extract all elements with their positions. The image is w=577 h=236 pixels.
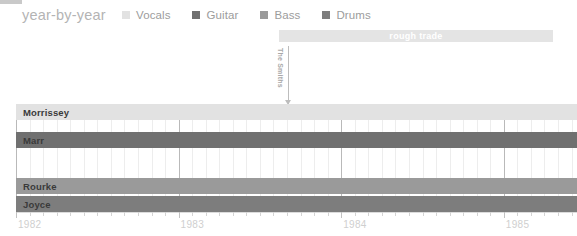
bar-series: MorrisseyMarrRourkeJoyce	[16, 104, 577, 212]
axis-tick-major	[179, 212, 180, 218]
axis-tick-minor	[355, 212, 356, 216]
axis-tick-minor	[219, 212, 220, 216]
label-banner: rough trade	[279, 30, 552, 42]
legend-item-vocals[interactable]: Vocals	[122, 9, 170, 21]
axis-tick-minor	[409, 212, 410, 216]
bar-morrissey[interactable]: Morrissey	[16, 104, 577, 120]
axis-tick-minor	[328, 212, 329, 216]
axis-tick-label: 1983	[181, 219, 204, 230]
page-title: year-by-year	[22, 7, 106, 23]
bar-row[interactable]: Rourke	[16, 178, 577, 194]
axis-tick-minor	[233, 212, 234, 216]
corner-mark	[0, 0, 22, 4]
axis-tick-label: 1985	[506, 219, 529, 230]
axis-tick-minor	[314, 212, 315, 216]
axis-tick-minor	[260, 212, 261, 216]
bar-label: Rourke	[23, 178, 57, 194]
axis-tick-minor	[287, 212, 288, 216]
axis-tick-label: 1984	[343, 219, 366, 230]
axis-tick-minor	[138, 212, 139, 216]
annotation-caption: The Smiths	[277, 48, 284, 88]
axis-tick-minor	[30, 212, 31, 216]
axis-tick-minor	[490, 212, 491, 216]
legend-item-label: Vocals	[136, 9, 170, 21]
axis-tick-minor	[192, 212, 193, 216]
bar-rourke[interactable]: Rourke	[16, 178, 577, 194]
bar-row[interactable]: Joyce	[16, 196, 577, 212]
bar-row[interactable]: Morrissey	[16, 104, 577, 120]
axis-tick-minor	[165, 212, 166, 216]
axis-tick-minor	[152, 212, 153, 216]
axis-tick-minor	[124, 212, 125, 216]
axis-tick-minor	[246, 212, 247, 216]
bar-label: Morrissey	[23, 104, 69, 120]
axis-tick-minor	[517, 212, 518, 216]
axis-tick-minor	[477, 212, 478, 216]
legend-item-label: Drums	[336, 9, 370, 21]
axis-tick-minor	[206, 212, 207, 216]
legend-swatch-icon	[260, 11, 268, 19]
axis-line	[16, 212, 577, 213]
axis-tick-minor	[395, 212, 396, 216]
legend-item-label: Guitar	[206, 9, 238, 21]
axis-tick-minor	[572, 212, 573, 216]
axis-tick-major	[341, 212, 342, 218]
axis-tick-minor	[382, 212, 383, 216]
axis-tick-minor	[111, 212, 112, 216]
axis-tick-minor	[450, 212, 451, 216]
legend-item-label: Bass	[274, 9, 300, 21]
timeline-chart: year-by-year VocalsGuitarBassDrums rough…	[0, 0, 577, 236]
axis-tick-minor	[544, 212, 545, 216]
axis-tick-minor	[97, 212, 98, 216]
bar-joyce[interactable]: Joyce	[16, 196, 577, 212]
axis-tick-minor	[531, 212, 532, 216]
axis-tick-minor	[273, 212, 274, 216]
x-axis: 1982198319841985	[16, 212, 577, 236]
legend-swatch-icon	[322, 11, 330, 19]
legend-swatch-icon	[192, 11, 200, 19]
legend-item-drums[interactable]: Drums	[322, 9, 370, 21]
axis-tick-minor	[43, 212, 44, 216]
legend-item-guitar[interactable]: Guitar	[192, 9, 238, 21]
axis-tick-minor	[368, 212, 369, 216]
axis-tick-minor	[301, 212, 302, 216]
bar-label: Marr	[23, 132, 44, 148]
axis-tick-minor	[84, 212, 85, 216]
legend: VocalsGuitarBassDrums	[122, 8, 393, 22]
annotation-marker-line	[288, 46, 289, 104]
axis-tick-minor	[463, 212, 464, 216]
legend-swatch-icon	[122, 11, 130, 19]
axis-tick-minor	[558, 212, 559, 216]
bar-row[interactable]: Marr	[16, 132, 577, 148]
axis-tick-minor	[423, 212, 424, 216]
axis-tick-minor	[436, 212, 437, 216]
axis-tick-major	[504, 212, 505, 218]
label-banner-text: rough trade	[279, 30, 552, 42]
axis-tick-major	[16, 212, 17, 218]
plot-area: MorrisseyMarrRourkeJoyce	[16, 104, 577, 212]
bar-label: Joyce	[23, 196, 51, 212]
axis-tick-minor	[57, 212, 58, 216]
bar-marr[interactable]: Marr	[16, 132, 577, 148]
legend-item-bass[interactable]: Bass	[260, 9, 300, 21]
axis-tick-label: 1982	[18, 219, 41, 230]
axis-tick-minor	[70, 212, 71, 216]
